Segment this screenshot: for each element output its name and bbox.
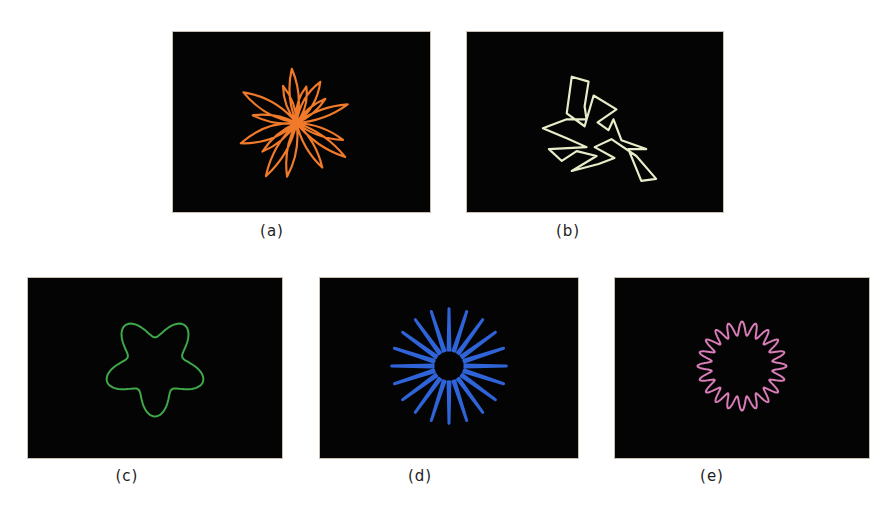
panel-b	[466, 31, 724, 213]
caption-a: (a)	[242, 222, 302, 240]
curve-random-petals	[173, 32, 430, 212]
panel-c	[27, 277, 283, 459]
panel-a	[172, 31, 431, 213]
curve-spikes	[320, 278, 578, 458]
panel-e	[614, 277, 870, 459]
caption-b: (b)	[538, 222, 598, 240]
caption-c: (c)	[97, 467, 157, 485]
panel-d	[319, 277, 579, 459]
caption-d: (d)	[390, 467, 450, 485]
caption-e: (e)	[682, 467, 742, 485]
curve-rose-star	[28, 278, 282, 458]
curve-wavy-ring	[615, 278, 869, 458]
curve-jagged	[467, 32, 723, 212]
